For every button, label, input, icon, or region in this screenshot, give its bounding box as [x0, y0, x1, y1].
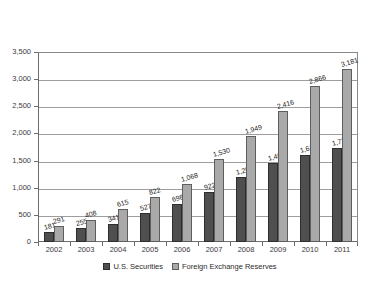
bar-us-securities — [140, 213, 150, 242]
bar-group: 1,2051,949 — [236, 52, 255, 242]
y-tick-label: 3,000 — [12, 75, 31, 83]
bar-us-securities — [76, 228, 86, 242]
bar-us-securities — [268, 163, 278, 242]
bar-value-label: 1,068 — [181, 171, 200, 183]
bar-group: 1,7273,181 — [332, 52, 351, 242]
legend-label: Foreign Exchange Reserves — [182, 263, 277, 271]
bar-us-securities — [332, 148, 342, 242]
bar-foreign-exchange-reserves — [278, 111, 288, 242]
bar-us-securities — [204, 192, 214, 242]
bar-value-label: 408 — [85, 209, 98, 219]
bar-chart: 05001,0001,5002,0002,5003,0003,500 18129… — [0, 0, 380, 285]
legend-swatch-icon — [103, 263, 110, 270]
bar-value-label: 1,949 — [245, 124, 264, 136]
bar-value-label: 2,416 — [277, 98, 296, 110]
bar-foreign-exchange-reserves — [310, 86, 320, 242]
x-tick-label: 2004 — [102, 246, 134, 262]
bar-foreign-exchange-reserves — [182, 184, 192, 242]
bar-group: 255408 — [76, 52, 95, 242]
bar-us-securities — [44, 232, 54, 242]
bar-us-securities — [108, 224, 118, 243]
y-axis: 05001,0001,5002,0002,5003,0003,500 — [0, 0, 38, 285]
x-tick-label: 2010 — [294, 246, 326, 262]
bar-us-securities — [236, 177, 246, 242]
bar-value-label: 2,866 — [309, 74, 328, 86]
x-tick-label: 2006 — [166, 246, 198, 262]
y-tick-label: 2,000 — [12, 130, 31, 138]
legend-label: U.S. Securities — [113, 263, 163, 271]
y-tick-label: 500 — [18, 211, 31, 219]
bar-foreign-exchange-reserves — [246, 136, 256, 242]
bar-value-label: 615 — [117, 198, 130, 208]
bar-foreign-exchange-reserves — [54, 226, 64, 242]
legend-swatch-icon — [172, 263, 179, 270]
bar-group: 341615 — [108, 52, 127, 242]
bars-layer: 1812912554083416155278226981,0689221,530… — [38, 52, 358, 242]
bar-foreign-exchange-reserves — [342, 69, 352, 242]
y-tick-label: 1,500 — [12, 157, 31, 165]
y-tick-label: 3,500 — [12, 48, 31, 56]
bar-value-label: 291 — [53, 215, 66, 225]
bar-foreign-exchange-reserves — [214, 159, 224, 242]
legend-item[interactable]: U.S. Securities — [103, 263, 163, 271]
bar-group: 1,4642,416 — [268, 52, 287, 242]
bar-group: 527822 — [140, 52, 159, 242]
chart-legend: U.S. SecuritiesForeign Exchange Reserves — [0, 263, 380, 271]
y-tick-label: 1,000 — [12, 184, 31, 192]
bar-value-label: 822 — [149, 186, 162, 196]
bar-us-securities — [172, 204, 182, 242]
bar-group: 181291 — [44, 52, 63, 242]
x-tick-label: 2008 — [230, 246, 262, 262]
x-axis: 2002200320042005200620072008200920102011 — [38, 246, 358, 262]
x-tick-label: 2005 — [134, 246, 166, 262]
bar-value-label: 3,181 — [341, 57, 360, 69]
bar-value-label: 1,530 — [213, 146, 232, 158]
legend-item[interactable]: Foreign Exchange Reserves — [172, 263, 277, 271]
bar-foreign-exchange-reserves — [118, 209, 128, 242]
y-tick-label: 0 — [27, 238, 31, 246]
bar-group: 1,6112,866 — [300, 52, 319, 242]
x-tick-label: 2011 — [326, 246, 358, 262]
x-tick-label: 2003 — [70, 246, 102, 262]
x-tick-label: 2002 — [38, 246, 70, 262]
bar-foreign-exchange-reserves — [150, 197, 160, 242]
bar-group: 6981,068 — [172, 52, 191, 242]
bar-group: 9221,530 — [204, 52, 223, 242]
bar-us-securities — [300, 155, 310, 242]
x-tick-label: 2009 — [262, 246, 294, 262]
x-tick-label: 2007 — [198, 246, 230, 262]
y-tick-label: 2,500 — [12, 103, 31, 111]
bar-foreign-exchange-reserves — [86, 220, 96, 242]
